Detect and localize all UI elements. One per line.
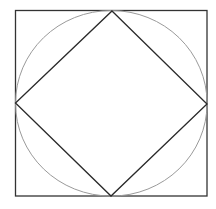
inscribed-circle bbox=[16, 11, 208, 197]
inscribed-diamond bbox=[16, 11, 208, 196]
geometry-diagram bbox=[0, 0, 216, 209]
outer-square bbox=[16, 11, 208, 197]
